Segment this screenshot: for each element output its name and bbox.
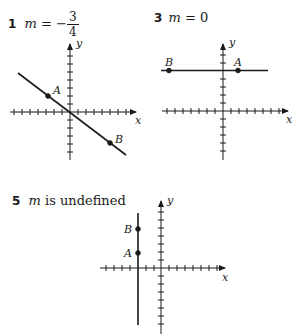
point-b-label: B bbox=[114, 133, 123, 146]
graph-3 bbox=[161, 44, 288, 160]
graphs: A B x y B A x y B A x y bbox=[0, 0, 302, 336]
y-axis-label: y bbox=[75, 37, 83, 50]
graph-5 bbox=[100, 201, 225, 334]
point-b bbox=[136, 227, 141, 232]
point-a bbox=[46, 94, 51, 99]
point-b-label: B bbox=[164, 56, 173, 69]
point-a bbox=[136, 251, 141, 256]
point-b-label: B bbox=[123, 223, 132, 236]
point-b bbox=[108, 141, 113, 146]
point-a-label: A bbox=[123, 247, 132, 260]
y-axis-label: y bbox=[228, 36, 236, 49]
point-a-label: A bbox=[52, 84, 61, 97]
point-a-label: A bbox=[233, 56, 242, 69]
y-axis-label: y bbox=[166, 194, 174, 207]
x-axis-label: x bbox=[286, 113, 293, 126]
x-axis-label: x bbox=[222, 271, 229, 284]
x-axis-label: x bbox=[135, 114, 142, 127]
